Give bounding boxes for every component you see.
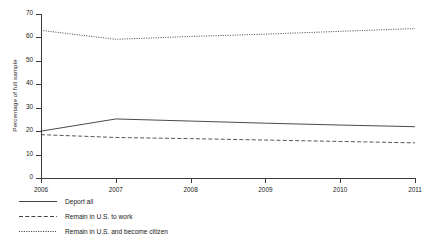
x-tick [41, 178, 42, 183]
y-tick-label: 20 [26, 126, 33, 133]
x-tick-label: 2007 [109, 186, 123, 193]
y-tick-label: 30 [26, 103, 33, 110]
legend-label: Deport all [58, 198, 93, 205]
x-tick [191, 178, 192, 183]
legend-label: Remain in U.S. to work [58, 213, 132, 220]
series-line [41, 29, 415, 40]
series-lines [41, 14, 415, 178]
y-tick-label: 70 [26, 9, 33, 16]
x-axis-line [41, 178, 415, 179]
y-axis-title: Percentage of full sample [11, 31, 18, 161]
series-line [41, 119, 415, 131]
y-tick-label: 60 [26, 32, 33, 39]
legend-item[interactable]: Remain in U.S. and become citizen [18, 224, 398, 239]
x-tick-label: 2008 [183, 186, 197, 193]
y-tick-label: 50 [26, 56, 33, 63]
x-tick-label: 2006 [34, 186, 48, 193]
x-tick-label: 2011 [408, 186, 422, 193]
y-tick-label: 10 [26, 150, 33, 157]
x-tick [265, 178, 266, 183]
y-tick-label: 0 [29, 173, 33, 180]
legend-item[interactable]: Remain in U.S. to work [18, 209, 398, 224]
series-line [41, 135, 415, 143]
chart-legend: Deport allRemain in U.S. to workRemain i… [18, 194, 398, 239]
legend-line-swatch [18, 212, 58, 221]
x-tick [340, 178, 341, 183]
x-tick-label: 2009 [258, 186, 272, 193]
legend-line-swatch [18, 227, 58, 236]
legend-label: Remain in U.S. and become citizen [58, 228, 168, 235]
x-tick-label: 2010 [333, 186, 347, 193]
plot-area: 010203040506070 200620072008200920102011 [41, 14, 415, 178]
x-tick [415, 178, 416, 183]
x-tick [116, 178, 117, 183]
legend-line-swatch [18, 197, 58, 206]
y-tick-label: 40 [26, 79, 33, 86]
legend-item[interactable]: Deport all [18, 194, 398, 209]
